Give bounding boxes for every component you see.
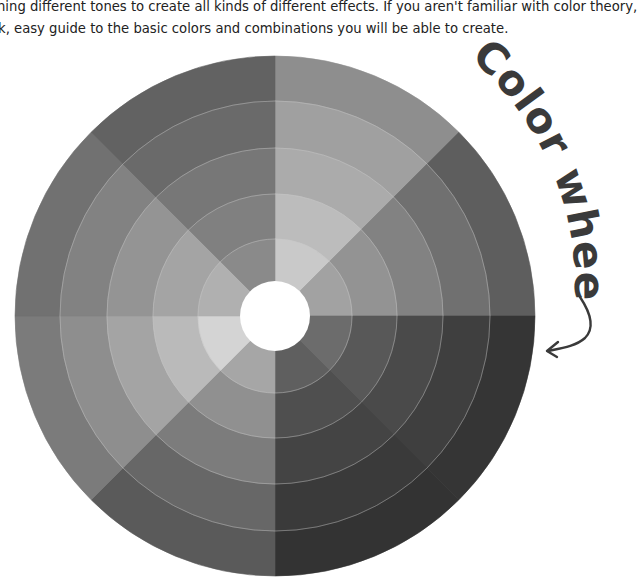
title-text: Color wheel (0, 0, 614, 301)
curved-arrow-icon (547, 297, 590, 357)
title-text-path: Color wheel (0, 0, 614, 301)
